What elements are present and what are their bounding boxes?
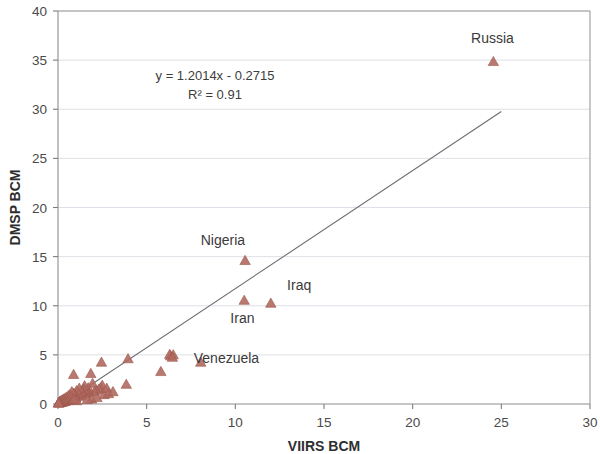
x-axis-tick-labels: 051015202530 (54, 415, 597, 430)
x-tick-label: 5 (143, 415, 151, 430)
point-label-iraq: Iraq (287, 277, 311, 293)
data-point-marker (96, 357, 106, 366)
gridlines (58, 11, 590, 355)
data-point-marker (68, 369, 78, 378)
data-point-marker (156, 366, 166, 375)
point-label-iran: Iran (230, 310, 254, 326)
y-tick-label: 30 (32, 102, 47, 117)
y-tick-label: 0 (39, 397, 47, 412)
point-label-russia: Russia (471, 30, 514, 46)
x-tick-label: 0 (54, 415, 62, 430)
data-point-marker (266, 298, 276, 307)
data-point-marker (86, 368, 96, 377)
r-squared-label: R² = 0.91 (188, 87, 242, 102)
y-tick-label: 10 (32, 299, 47, 314)
scatter-chart: 0510152025303540 051015202530 RussiaNige… (0, 0, 600, 454)
y-tick-label: 15 (32, 250, 47, 265)
data-point-marker (488, 56, 498, 65)
data-point-marker (121, 379, 131, 388)
x-tick-label: 25 (494, 415, 509, 430)
x-tick-label: 10 (228, 415, 243, 430)
y-tick-label: 5 (39, 348, 47, 363)
axis-ticks (53, 11, 590, 409)
regression-equation-label: y = 1.2014x - 0.2715 (156, 68, 275, 83)
plot-canvas: 0510152025303540 051015202530 RussiaNige… (0, 0, 600, 454)
x-tick-label: 15 (316, 415, 331, 430)
y-tick-label: 40 (32, 4, 47, 19)
y-axis-tick-labels: 0510152025303540 (32, 4, 47, 412)
regression-equation-annotation: y = 1.2014x - 0.2715R² = 0.91 (156, 68, 275, 102)
data-point-marker (239, 295, 249, 304)
x-axis-title: VIIRS BCM (288, 438, 360, 454)
x-tick-label: 20 (405, 415, 420, 430)
point-label-nigeria: Nigeria (201, 232, 246, 248)
point-label-venezuela: Venezuela (194, 350, 260, 366)
y-axis-title: DMSP BCM (7, 170, 23, 246)
y-tick-label: 20 (32, 201, 47, 216)
y-tick-label: 25 (32, 151, 47, 166)
x-tick-label: 30 (582, 415, 597, 430)
y-tick-label: 35 (32, 53, 47, 68)
